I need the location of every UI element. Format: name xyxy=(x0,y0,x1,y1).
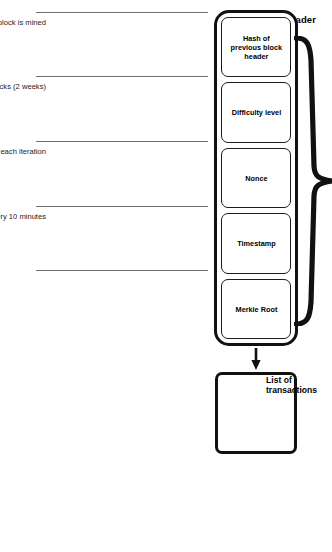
tick-line-end xyxy=(36,270,208,271)
field-nonce-label: Nonce xyxy=(229,173,283,182)
list-of-transactions-label: List of transactions xyxy=(266,375,332,395)
note-prev-hash: Updated after a new block is mined xyxy=(0,18,46,27)
tick-line-nonce xyxy=(36,141,208,142)
diagram-canvas: Block Header Hash of previous block head… xyxy=(0,0,332,552)
merkle-to-transactions-arrow-icon xyxy=(251,348,261,370)
field-nonce[interactable]: Nonce xyxy=(221,148,291,208)
block-header-brace-icon xyxy=(294,36,332,326)
tick-line-timestamp xyxy=(36,206,208,207)
field-difficulty[interactable]: Difficulty level xyxy=(221,82,291,142)
note-timestamp: Updated on average every 10 minutes xyxy=(0,212,46,221)
list-of-transactions-box[interactable]: List of transactions xyxy=(215,372,297,454)
field-prev-hash-label: Hash of previous block header xyxy=(229,34,283,61)
field-merkle-root-label: Merkle Root xyxy=(229,304,283,313)
field-timestamp-label: Timestamp xyxy=(229,239,283,248)
field-difficulty-label: Difficulty level xyxy=(229,108,283,117)
field-merkle-root[interactable]: Merkle Root xyxy=(221,279,291,339)
note-difficulty: Updated every 2,016 blocks (2 weeks) xyxy=(0,82,46,91)
tick-line-prev-hash xyxy=(36,12,208,13)
tick-line-difficulty xyxy=(36,76,208,77)
block-header-fields: Hash of previous block header Difficulty… xyxy=(221,17,291,339)
note-nonce: Constantly updated after each iteration xyxy=(0,147,46,156)
field-timestamp[interactable]: Timestamp xyxy=(221,213,291,273)
field-prev-hash[interactable]: Hash of previous block header xyxy=(221,17,291,77)
